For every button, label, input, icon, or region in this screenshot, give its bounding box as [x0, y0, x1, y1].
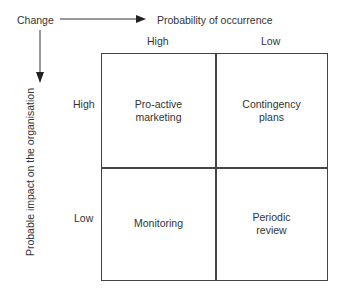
y-level-high: High — [73, 98, 95, 110]
down-arrow-icon — [33, 30, 47, 84]
origin-label: Change — [17, 14, 54, 26]
x-level-high: High — [147, 35, 169, 47]
matrix-grid: Pro-active marketing Contingency plans M… — [101, 53, 328, 281]
cell-high-impact-high-probability: Pro-active marketing — [102, 54, 215, 167]
x-level-low: Low — [261, 35, 280, 47]
cell-high-impact-low-probability: Contingency plans — [215, 54, 328, 167]
cell-low-impact-low-probability: Periodic review — [215, 167, 328, 280]
right-arrow-icon — [58, 12, 148, 26]
y-level-low: Low — [74, 212, 93, 224]
y-axis-title: Probable impact on the organisation — [24, 88, 36, 256]
x-axis-title: Probability of occurrence — [157, 14, 273, 26]
cell-low-impact-high-probability: Monitoring — [102, 167, 215, 280]
